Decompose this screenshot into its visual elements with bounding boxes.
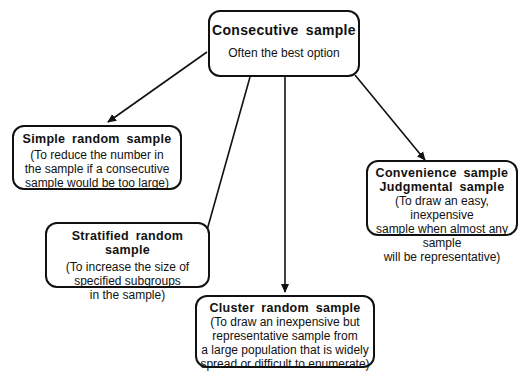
node-title: Simple random sample <box>14 132 180 146</box>
root-node-consecutive: Consecutive sample Often the best option <box>208 10 360 77</box>
node-title: Stratified random sample <box>47 229 208 257</box>
root-title: Consecutive sample <box>210 22 358 38</box>
node-simple-random: Simple random sample (To reduce the numb… <box>12 125 182 190</box>
root-subtitle: Often the best option <box>210 46 358 60</box>
node-stratified-random: Stratified random sample (To increase th… <box>45 222 210 288</box>
node-line: representative sample from <box>197 329 373 343</box>
node-convenience-judgmental: Convenience sample Judgmental sample (To… <box>366 160 518 236</box>
node-line: spread or difficult to enumerate) <box>197 357 373 371</box>
node-line: (To draw an inexpensive but <box>197 315 373 329</box>
arrow-to-convenience <box>355 75 425 160</box>
node-line: (To draw an easy, inexpensive <box>368 194 516 222</box>
node-line: in the sample) <box>47 288 208 302</box>
node-line: a large population that is widely <box>197 343 373 357</box>
node-title: Cluster random sample <box>197 301 373 315</box>
node-line: specified subgroups <box>47 274 208 288</box>
arrow-to-simple <box>108 52 207 122</box>
node-title-secondary: Judgmental sample <box>368 180 516 194</box>
node-line: (To reduce the number in <box>14 148 180 162</box>
node-line: will be representative) <box>368 250 516 264</box>
node-line: (To increase the size of <box>47 260 208 274</box>
node-line: sample would be too large) <box>14 176 180 190</box>
node-cluster-random: Cluster random sample (To draw an inexpe… <box>195 295 375 368</box>
node-title: Convenience sample <box>368 166 516 180</box>
node-line: sample when almost any sample <box>368 222 516 250</box>
node-line: the sample if a consecutive <box>14 162 180 176</box>
arrow-to-stratified <box>202 77 250 248</box>
